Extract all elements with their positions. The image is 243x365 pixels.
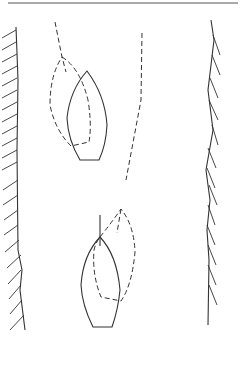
right-bank <box>206 20 220 325</box>
diagram-canvas <box>0 0 243 365</box>
boat-x <box>81 215 120 327</box>
boat-y <box>67 71 107 160</box>
course-line <box>126 33 142 180</box>
left-bank <box>2 27 25 330</box>
boat-y-ghost <box>50 22 90 146</box>
